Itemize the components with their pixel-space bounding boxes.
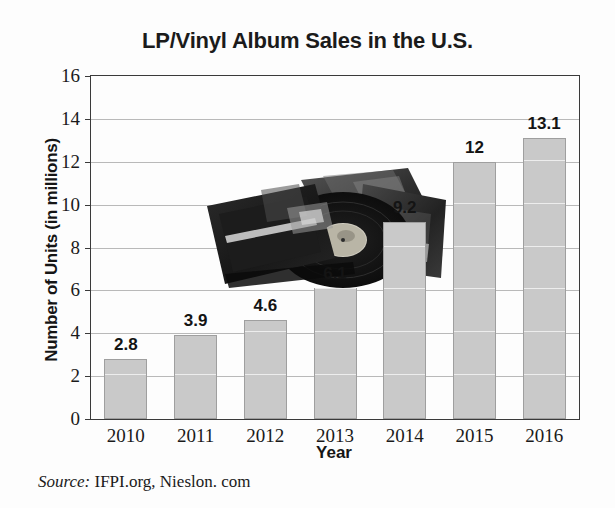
- gridline-showthrough: [454, 203, 495, 204]
- y-tick-label: 16: [61, 65, 80, 87]
- gridline: [91, 162, 579, 163]
- chart-title: LP/Vinyl Album Sales in the U.S.: [0, 28, 615, 54]
- y-tick-mark: [85, 205, 91, 206]
- gridline-showthrough: [524, 246, 565, 247]
- y-tick-label: 4: [71, 322, 81, 344]
- source-label: Source:: [38, 472, 90, 491]
- gridline: [91, 205, 579, 206]
- gridline-showthrough: [105, 374, 146, 375]
- gridline-showthrough: [454, 331, 495, 332]
- gridline-showthrough: [524, 160, 565, 161]
- gridline-showthrough: [454, 288, 495, 289]
- plot-area: 0246810121416: [90, 75, 580, 420]
- gridline-showthrough: [315, 288, 356, 289]
- gridline-showthrough: [384, 288, 425, 289]
- y-tick-mark: [85, 376, 91, 377]
- y-tick-label: 14: [61, 108, 80, 130]
- bar[interactable]: 4.62012: [244, 320, 287, 419]
- y-tick-label: 6: [71, 279, 81, 301]
- x-axis-title: Year: [90, 443, 578, 463]
- chart-figure: LP/Vinyl Album Sales in the U.S. Number …: [0, 0, 615, 508]
- bar[interactable]: 9.22014: [383, 222, 426, 419]
- gridline-showthrough: [175, 374, 216, 375]
- gridline-showthrough: [245, 331, 286, 332]
- bar-value-label: 9.2: [393, 198, 417, 218]
- bar[interactable]: 2.82010: [104, 359, 147, 419]
- gridline-showthrough: [524, 203, 565, 204]
- y-axis-title: Number of Units (in millions): [42, 100, 62, 400]
- y-tick-mark: [85, 248, 91, 249]
- bar-value-label: 6.1: [323, 264, 347, 284]
- gridline-showthrough: [524, 288, 565, 289]
- bar-value-label: 3.9: [184, 311, 208, 331]
- bar-value-label: 2.8: [114, 335, 138, 355]
- gridline-showthrough: [315, 374, 356, 375]
- gridline-showthrough: [384, 331, 425, 332]
- gridline-showthrough: [454, 246, 495, 247]
- bar[interactable]: 122015: [453, 162, 496, 419]
- y-tick-mark: [85, 419, 91, 420]
- y-tick-mark: [85, 290, 91, 291]
- gridline-showthrough: [524, 331, 565, 332]
- source-note: Source: IFPI.org, Nieslon. com: [38, 472, 251, 492]
- source-text: IFPI.org, Nieslon. com: [95, 472, 251, 491]
- y-tick-label: 2: [71, 365, 81, 387]
- y-tick-mark: [85, 333, 91, 334]
- gridline: [91, 248, 579, 249]
- y-tick-label: 10: [61, 194, 80, 216]
- gridline-showthrough: [524, 374, 565, 375]
- bar-value-label: 13.1: [528, 114, 561, 134]
- gridline-showthrough: [384, 246, 425, 247]
- gridline-showthrough: [384, 374, 425, 375]
- bar-value-label: 12: [465, 138, 484, 158]
- y-tick-label: 8: [71, 237, 81, 259]
- bar[interactable]: 3.92011: [174, 335, 217, 419]
- y-tick-mark: [85, 76, 91, 77]
- bar[interactable]: 6.12013: [314, 288, 357, 419]
- gridline-showthrough: [245, 374, 286, 375]
- y-tick-label: 0: [71, 408, 81, 430]
- y-tick-label: 12: [61, 151, 80, 173]
- gridline-showthrough: [454, 374, 495, 375]
- bar[interactable]: 13.12016: [523, 138, 566, 419]
- gridline-showthrough: [315, 331, 356, 332]
- gridline: [91, 119, 579, 120]
- y-tick-mark: [85, 162, 91, 163]
- bar-value-label: 4.6: [253, 296, 277, 316]
- y-tick-mark: [85, 119, 91, 120]
